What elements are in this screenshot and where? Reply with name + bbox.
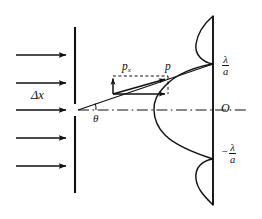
theta-angle-arc [95,104,96,110]
lambda-over-a-negative-label: − λ a [229,142,236,165]
momentum-resultant-vector [113,79,165,94]
minus-sign: − [222,146,228,157]
aperture-denominator: a [222,65,229,77]
diffracted-ray [78,64,213,110]
momentum-resultant-label: p [165,61,171,73]
lambda-numerator-negative: λ [229,142,236,153]
momentum-x-subscript: x [128,66,131,74]
diffraction-figure: Δx θ px p O λ a − λ a [0,0,262,219]
theta-angle-label: θ [93,113,98,124]
origin-label: O [221,102,230,114]
incident-plane-wave-arrows [16,55,66,166]
aperture-denominator-negative: a [229,153,236,165]
lambda-over-a-positive-label: λ a [222,54,229,77]
momentum-x-label: px [122,61,131,74]
slit-width-label: Δx [31,89,44,102]
lambda-numerator: λ [222,54,229,65]
